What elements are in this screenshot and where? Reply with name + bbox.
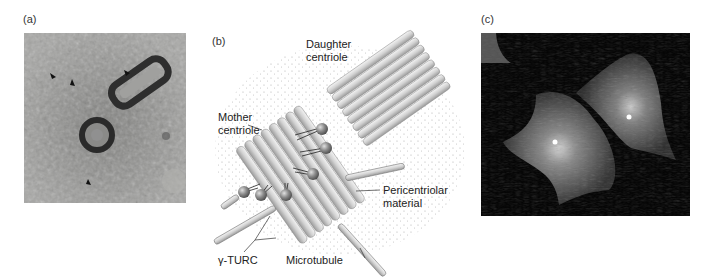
- mother-centriole-label: Mother centriole: [218, 111, 260, 137]
- fluorescence-micrograph: [481, 33, 690, 216]
- pericentriolar-material-label: Pericentriolar material: [383, 184, 448, 210]
- panel-c-label: (c): [481, 13, 494, 25]
- panel-a-label: (a): [23, 13, 36, 25]
- daughter-centriole-label: Daughter centriole: [306, 38, 351, 64]
- microtubule-label: Microtubule: [286, 254, 343, 267]
- electron-micrograph: [24, 33, 186, 203]
- gamma-turc-label: γ-TURC: [218, 254, 258, 267]
